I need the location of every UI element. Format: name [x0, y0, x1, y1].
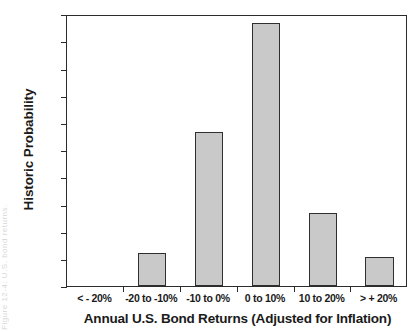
- bar-2: [195, 132, 223, 286]
- y-tick-mark: [61, 260, 67, 261]
- bar-3: [252, 23, 280, 286]
- x-tick-label: < - 20%: [66, 292, 123, 304]
- y-tick-mark: [61, 151, 67, 152]
- y-tick-mark: [61, 97, 67, 98]
- y-tick-mark: [61, 70, 67, 71]
- y-tick-mark: [61, 287, 67, 288]
- y-tick-mark: [61, 124, 67, 125]
- y-tick-mark: [61, 233, 67, 234]
- bar-1: [138, 253, 166, 286]
- y-tick-mark: [61, 15, 67, 16]
- bar-5: [365, 257, 393, 286]
- x-axis-title: Annual U.S. Bond Returns (Adjusted for I…: [60, 311, 415, 326]
- y-tick-mark: [61, 206, 67, 207]
- x-tick-label: 0 to 10%: [237, 292, 294, 304]
- y-axis-title: Historic Probability: [21, 50, 36, 250]
- x-tick-label: > + 20%: [350, 292, 407, 304]
- page-edge-artifact-text: Figure 12-4: U.S. bond returns.: [0, 150, 9, 330]
- y-tick-mark: [61, 42, 67, 43]
- x-tick-label: -10 to 0%: [180, 292, 237, 304]
- x-tick-label: 10 to 20%: [293, 292, 350, 304]
- plot-area: [66, 15, 407, 287]
- y-tick-mark: [61, 178, 67, 179]
- bar-4: [309, 213, 337, 286]
- bar-chart-figure: Figure 12-4: U.S. bond returns. Historic…: [0, 0, 419, 332]
- x-tick-label: -20 to -10%: [123, 292, 180, 304]
